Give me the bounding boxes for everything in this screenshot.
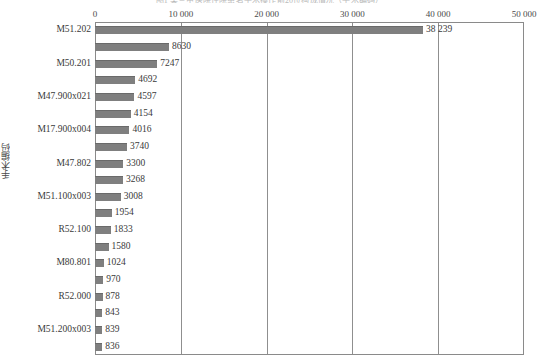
- bar: [95, 60, 157, 68]
- bar-value-label: 7247: [157, 59, 179, 67]
- chart-title: 图1 某三甲医院住院患者手术操作前20位构成情况（手术编码）: [0, 0, 539, 3]
- bar-value-label: 836: [102, 342, 119, 350]
- bar: [95, 309, 102, 317]
- bar-row: 1580: [95, 243, 131, 251]
- bar: [95, 293, 103, 301]
- bar-row: 3740: [95, 143, 149, 151]
- bar-value-label: 4154: [131, 109, 153, 117]
- bar-row: 843: [95, 309, 119, 317]
- bar: [95, 143, 127, 151]
- bar-row: 3300: [95, 160, 145, 168]
- bar-row: 3008: [95, 193, 143, 201]
- bar: [95, 110, 131, 118]
- y-tick-label: M51.202: [56, 25, 91, 34]
- y-tick-label: R52.000: [59, 292, 91, 301]
- bar-series: 38 2398630724746924597415440163740330032…: [95, 22, 539, 355]
- bar-row: 1833: [95, 226, 133, 234]
- bar-value-label: 4597: [134, 92, 156, 100]
- bar-value-label: 3300: [123, 159, 145, 167]
- bar-value-label: 3268: [123, 175, 145, 183]
- bar-value-label: 1833: [111, 225, 133, 233]
- x-tick-label: 30 000: [340, 9, 365, 19]
- bar-value-label: 970: [103, 275, 120, 283]
- bar: [95, 243, 109, 251]
- y-tick-label: M80.801: [56, 258, 91, 267]
- bar-value-label: 1580: [109, 242, 131, 250]
- bar-value-label: 3008: [121, 192, 143, 200]
- bar: [95, 126, 129, 134]
- bar-row: 4016: [95, 126, 151, 134]
- x-tick-label: 50 000: [512, 9, 537, 19]
- bar-value-label: 4016: [129, 125, 151, 133]
- bar-row: 8630: [95, 43, 191, 51]
- y-tick-label: M50.201: [56, 59, 91, 68]
- bar: [95, 193, 121, 201]
- bar: [95, 93, 134, 101]
- y-tick-label: M47.802: [56, 159, 91, 168]
- bar-value-label: 878: [103, 292, 120, 300]
- bar-row: 1954: [95, 209, 134, 217]
- x-tick-label: 20 000: [254, 9, 279, 19]
- bar-value-label: 3740: [127, 142, 149, 150]
- bar-row: 836: [95, 343, 119, 351]
- bar: [95, 226, 111, 234]
- bar: [95, 160, 123, 168]
- bar-value-label: 38 239: [423, 25, 452, 33]
- x-tick-label: 0: [93, 9, 98, 19]
- bar-value-label: 843: [102, 308, 119, 316]
- bar-row: 3268: [95, 176, 145, 184]
- x-tick-label: 40 000: [426, 9, 451, 19]
- bar-value-label: 839: [102, 325, 119, 333]
- x-axis-tick-labels: 010 00020 00030 00040 00050 000: [0, 9, 539, 21]
- bar-row: 878: [95, 293, 120, 301]
- bar: [95, 76, 135, 84]
- bar-row: 38 239: [95, 26, 452, 34]
- bar: [95, 276, 103, 284]
- bar: [95, 43, 169, 51]
- bar-value-label: 1954: [112, 208, 134, 216]
- bar: [95, 259, 104, 267]
- y-tick-label: M17.900x004: [37, 125, 91, 134]
- bar: [95, 26, 423, 34]
- bar-row: 4154: [95, 110, 153, 118]
- bar-row: 970: [95, 276, 121, 284]
- bar-value-label: 4692: [135, 75, 157, 83]
- bar-row: 7247: [95, 60, 179, 68]
- bar: [95, 343, 102, 351]
- bar-row: 4597: [95, 93, 156, 101]
- y-axis-category-labels: M51.202M50.201M47.900x021M17.900x004M47.…: [0, 22, 93, 355]
- bar-row: 4692: [95, 76, 157, 84]
- bar-chart: 图1 某三甲医院住院患者手术操作前20位构成情况（手术编码） 手术编码 010 …: [0, 0, 539, 358]
- x-tick-label: 10 000: [168, 9, 193, 19]
- bar-value-label: 1024: [104, 258, 126, 266]
- y-tick-label: M51.200x003: [37, 325, 91, 334]
- y-tick-label: M51.100x003: [37, 192, 91, 201]
- y-tick-label: M47.900x021: [37, 92, 91, 101]
- bar: [95, 326, 102, 334]
- bar: [95, 209, 112, 217]
- bar-row: 1024: [95, 259, 126, 267]
- y-tick-label: R52.100: [59, 225, 91, 234]
- bar: [95, 176, 123, 184]
- bar-value-label: 8630: [169, 42, 191, 50]
- bar-row: 839: [95, 326, 119, 334]
